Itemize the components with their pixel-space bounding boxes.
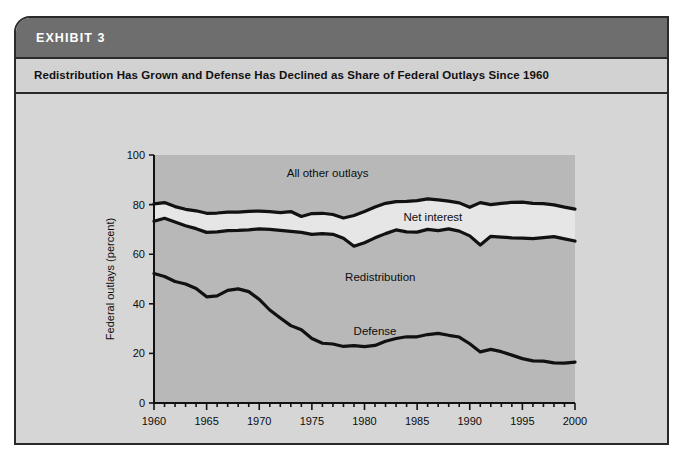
y-tick-label: 0 bbox=[139, 397, 145, 409]
series-annotation: Redistribution bbox=[345, 271, 415, 283]
x-tick-label: 1990 bbox=[458, 415, 482, 427]
series-annotation: Net interest bbox=[404, 211, 464, 223]
y-tick-label: 60 bbox=[133, 248, 145, 260]
y-tick-label: 40 bbox=[133, 298, 145, 310]
y-tick-label: 80 bbox=[133, 199, 145, 211]
x-tick-label: 1980 bbox=[352, 415, 376, 427]
series-annotation: Defense bbox=[354, 325, 397, 337]
exhibit-subtitle-bar: Redistribution Has Grown and Defense Has… bbox=[16, 59, 667, 94]
chart-container: 0204060801001960196519701975198019851990… bbox=[16, 94, 667, 445]
exhibit-subtitle: Redistribution Has Grown and Defense Has… bbox=[34, 69, 549, 81]
x-tick-label: 1970 bbox=[247, 415, 271, 427]
exhibit-header-bar: EXHIBIT 3 bbox=[16, 18, 667, 59]
x-tick-label: 1965 bbox=[194, 415, 218, 427]
y-tick-label: 20 bbox=[133, 347, 145, 359]
y-tick-label: 100 bbox=[127, 149, 145, 161]
x-tick-label: 2000 bbox=[563, 415, 587, 427]
exhibit-label: EXHIBIT 3 bbox=[36, 31, 106, 45]
x-tick-label: 1995 bbox=[510, 415, 534, 427]
series-annotation: All other outlays bbox=[287, 167, 369, 179]
stacked-area-chart: 0204060801001960196519701975198019851990… bbox=[16, 94, 667, 445]
y-axis-title: Federal outlays (percent) bbox=[104, 218, 116, 340]
x-tick-label: 1985 bbox=[405, 415, 429, 427]
exhibit-card: EXHIBIT 3 Redistribution Has Grown and D… bbox=[14, 16, 669, 445]
x-tick-label: 1975 bbox=[300, 415, 324, 427]
x-tick-label: 1960 bbox=[142, 415, 166, 427]
